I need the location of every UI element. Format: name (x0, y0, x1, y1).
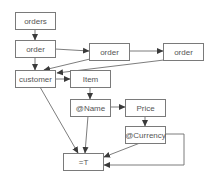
node-order3: order (164, 44, 204, 61)
node-customer: customer (16, 71, 56, 88)
node-label: @Currency (125, 131, 166, 140)
node-label: @Name (76, 104, 106, 113)
node-label: order (100, 48, 119, 57)
node-label: orders (24, 17, 47, 26)
node-label: Price (136, 104, 155, 113)
edge-name-to-eqT (85, 116, 88, 153)
edge-currency-to-eqT (104, 143, 140, 157)
edge-order1-to-order2 (55, 49, 89, 51)
node-name: @Name (71, 100, 111, 117)
node-order2: order (90, 44, 130, 61)
node-label: =T (79, 158, 89, 167)
node-currency: @Currency (125, 127, 166, 144)
diagram-canvas: ordersorderorderordercustomerItem@NamePr… (0, 0, 214, 178)
node-orders: orders (16, 13, 56, 30)
node-label: customer (19, 75, 52, 84)
nodes-layer: ordersorderorderordercustomerItem@NamePr… (16, 13, 204, 171)
node-label: order (174, 48, 193, 57)
edge-order2-to-customer (44, 59, 90, 70)
edge-customer-to-eqT (40, 87, 78, 153)
node-price: Price (126, 100, 166, 117)
node-order1: order (16, 41, 56, 58)
node-item: Item (71, 71, 111, 88)
node-label: Item (83, 75, 99, 84)
node-eqT: =T (64, 154, 104, 171)
node-label: order (26, 45, 45, 54)
